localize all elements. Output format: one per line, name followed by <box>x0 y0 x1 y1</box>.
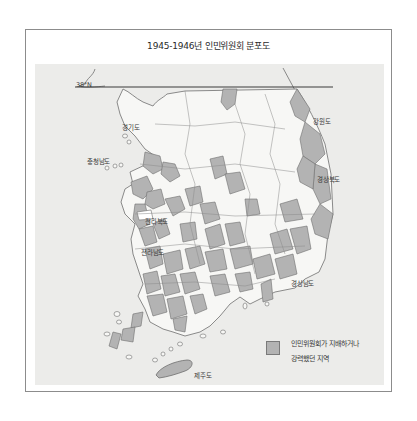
region-label-gyeongnam: 경상남도 <box>291 278 314 288</box>
38n-label: 38°N <box>76 81 92 89</box>
region-label-jeonnam: 전라남도 <box>141 247 164 257</box>
region-label-jeonbuk: 전라북도 <box>145 216 168 226</box>
legend-text-line1: 인민위원회가 지배하거나 <box>291 338 359 348</box>
map-title: 1945-1946년 인민위원회 분포도 <box>26 39 391 52</box>
region-label-gangwon: 강원도 <box>313 116 330 126</box>
map-figure-frame: 1945-1946년 인민위원회 분포도 <box>25 29 392 392</box>
region-label-chungnam: 충청남도 <box>87 156 110 166</box>
jeju-island <box>156 360 192 378</box>
legend-swatch <box>266 341 280 355</box>
map-panel: 38°N 경기도 강원도 충청남도 경상북도 전라북도 전라남도 경상남도 제주… <box>35 64 384 385</box>
region-label-jeju: 제주도 <box>194 370 211 380</box>
region-label-gyeonggi: 경기도 <box>122 122 139 132</box>
legend-text-line2: 강력했던 지역 <box>291 353 329 363</box>
korea-peninsula-map <box>35 64 384 385</box>
region-label-gyeongbuk: 경상북도 <box>317 174 340 184</box>
